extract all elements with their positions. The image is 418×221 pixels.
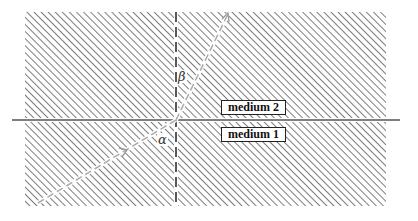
medium-1-region [25, 122, 386, 206]
diagram-canvas [0, 0, 418, 221]
medium-2-region [25, 12, 386, 118]
medium-2-label: medium 2 [221, 100, 286, 115]
refraction-diagram: β α medium 2 medium 1 [0, 0, 418, 221]
medium-1-label: medium 1 [221, 127, 286, 142]
alpha-angle-label: α [157, 133, 168, 146]
beta-angle-label: β [177, 70, 187, 83]
